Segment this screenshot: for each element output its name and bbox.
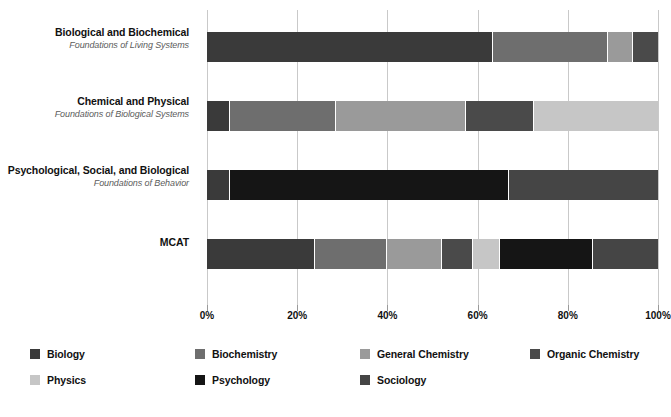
legend-swatch-icon [195, 349, 205, 359]
legend-swatch-icon [530, 349, 540, 359]
x-axis-labels: 0%20%40%60%80%100% [207, 310, 658, 326]
legend-item[interactable]: Biology [30, 348, 85, 360]
bar-segment [473, 239, 500, 269]
bar-segment [230, 101, 336, 131]
x-axis-tick-label: 40% [377, 310, 397, 321]
bar-segment [207, 101, 230, 131]
bar-row-label-title: Biological and Biochemical [0, 26, 189, 39]
bar-row-label: MCAT [0, 236, 198, 249]
bar-segment [500, 239, 592, 269]
bar-segment [493, 32, 608, 62]
bar-row-label-title: MCAT [0, 236, 189, 249]
x-axis-tick-label: 0% [200, 310, 214, 321]
bars-layer [207, 10, 658, 305]
bar-row-label-subtitle: Foundations of Living Systems [0, 39, 189, 51]
legend-swatch-icon [360, 375, 370, 385]
bar-row-label: Biological and BiochemicalFoundations of… [0, 26, 198, 51]
bar-segment [534, 101, 658, 131]
bar-row-label-subtitle: Foundations of Behavior [0, 177, 189, 189]
bar-row [207, 170, 658, 200]
bar-segment [608, 32, 633, 62]
bar-segment [230, 170, 510, 200]
legend-swatch-icon [360, 349, 370, 359]
legend-item[interactable]: Physics [30, 374, 86, 386]
gridline [658, 10, 659, 305]
legend-swatch-icon [30, 349, 40, 359]
legend-swatch-icon [195, 375, 205, 385]
bar-segment [207, 170, 230, 200]
bar-row-label-title: Psychological, Social, and Biological [0, 164, 189, 177]
plot-area [207, 10, 658, 305]
legend-item[interactable]: Organic Chemistry [530, 348, 639, 360]
bar-row [207, 32, 658, 62]
legend-item[interactable]: Sociology [360, 374, 426, 386]
bar-segment [442, 239, 474, 269]
x-axis-tick-label: 60% [468, 310, 488, 321]
legend-item[interactable]: Biochemistry [195, 348, 277, 360]
bar-segment [633, 32, 658, 62]
bar-segment [207, 32, 493, 62]
chart-legend: BiologyBiochemistryGeneral ChemistryOrga… [30, 348, 650, 406]
legend-item[interactable]: General Chemistry [360, 348, 469, 360]
legend-label: General Chemistry [377, 348, 469, 360]
bar-row [207, 101, 658, 131]
legend-label: Organic Chemistry [547, 348, 639, 360]
bar-segment [336, 101, 467, 131]
bar-row-label: Chemical and PhysicalFoundations of Biol… [0, 95, 198, 120]
bar-segment [593, 239, 658, 269]
bar-row-label: Psychological, Social, and BiologicalFou… [0, 164, 198, 189]
bar-row [207, 239, 658, 269]
x-axis-tick-label: 100% [645, 310, 671, 321]
bar-segment [466, 101, 534, 131]
bar-segment [207, 239, 315, 269]
x-axis-tick-label: 80% [558, 310, 578, 321]
bar-row-label-subtitle: Foundations of Biological Systems [0, 108, 189, 120]
bar-row-label-title: Chemical and Physical [0, 95, 189, 108]
x-axis-tick-label: 20% [287, 310, 307, 321]
bar-segment [509, 170, 658, 200]
legend-item[interactable]: Psychology [195, 374, 270, 386]
legend-swatch-icon [30, 375, 40, 385]
legend-label: Biology [47, 348, 85, 360]
legend-label: Physics [47, 374, 86, 386]
bar-segment [315, 239, 387, 269]
legend-label: Sociology [377, 374, 426, 386]
bar-segment [387, 239, 441, 269]
legend-label: Psychology [212, 374, 270, 386]
legend-label: Biochemistry [212, 348, 277, 360]
